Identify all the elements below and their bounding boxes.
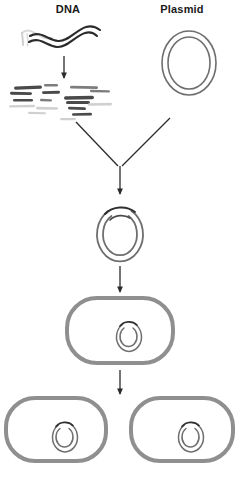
daughter-left-cell-wall [6, 398, 106, 461]
recombinant-insert-arc [105, 208, 135, 214]
dna-fragment [66, 101, 90, 104]
dna-fragment [10, 92, 32, 95]
dna-label: DNA [40, 3, 96, 15]
dna-fragment [68, 107, 86, 110]
transformation-diagram: DNA Plasmid [0, 0, 240, 484]
transformed-cell-wall [67, 298, 173, 363]
plasmid-outer-ring [162, 31, 216, 95]
dna-strand-faded-hook [27, 34, 28, 46]
dna-fragment [13, 99, 33, 102]
dna-molecule-group [22, 26, 100, 47]
plasmid-label: Plasmid [148, 3, 216, 15]
dna-fragment [44, 84, 58, 87]
dna-fragment [42, 91, 60, 94]
arrow-fragments-ligate [76, 122, 118, 166]
transformed-cell-group [67, 298, 173, 363]
dna-fragment [40, 99, 52, 102]
dna-fragment [14, 86, 42, 90]
recombinant-insert-arc-inner [110, 216, 130, 220]
dna-fragment [60, 118, 76, 120]
dna-fragment [70, 86, 98, 89]
plasmid-molecule-group [162, 31, 216, 95]
dna-fragment [36, 107, 58, 110]
dna-fragments-group [9, 84, 112, 120]
dna-fragment [64, 96, 94, 100]
daughter-cell-left-group [6, 398, 106, 461]
dna-fragment [90, 90, 110, 93]
dna-fragment [88, 103, 112, 106]
plasmid-inner-ring [168, 37, 210, 89]
dna-strand-top [30, 26, 100, 41]
dna-fragment [72, 113, 92, 116]
diagram-canvas [0, 0, 240, 484]
daughter-cell-right-group [131, 398, 233, 461]
dna-strand-faded-lower [22, 33, 23, 45]
daughter-right-cell-wall [131, 398, 233, 461]
arrow-plasmid-ligate [122, 118, 170, 166]
dna-fragment [28, 112, 46, 115]
recombinant-plasmid-group [97, 208, 143, 262]
recombinant-inner-ring [103, 216, 137, 255]
dna-fragment [9, 105, 35, 108]
